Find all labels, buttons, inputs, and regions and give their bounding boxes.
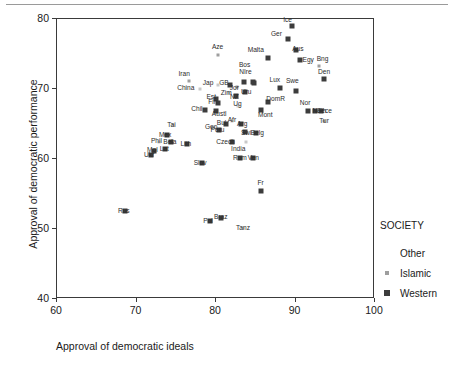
- data-point-label: Den: [318, 68, 330, 75]
- x-tick-mark: [374, 298, 375, 302]
- data-point-label: Bng: [317, 56, 329, 63]
- data-point-label: Swe: [286, 77, 299, 84]
- data-point-label: Nor: [300, 100, 311, 107]
- data-point-label: Belg: [251, 130, 264, 137]
- plot-area: IceGerAusMaltaEgyBngDenAzeBosNIreIranLux…: [56, 18, 374, 298]
- legend-item-other[interactable]: Other: [380, 243, 454, 263]
- data-point: [241, 80, 246, 85]
- x-axis-label: Approval of democratic ideals: [56, 340, 316, 352]
- y-tick-mark: [52, 228, 56, 229]
- data-point: [202, 108, 207, 113]
- data-point-label: Ukr: [144, 152, 154, 159]
- data-point-label: GB: [219, 80, 229, 87]
- y-axis-label: Approval of democratic performance: [27, 39, 39, 289]
- data-point: [277, 85, 282, 90]
- data-point-label: Lux: [270, 77, 281, 84]
- data-point-label: Aus: [292, 46, 303, 53]
- data-point: [252, 80, 257, 85]
- data-point-label: Arg: [237, 121, 247, 128]
- data-point-label: Lith: [180, 140, 191, 147]
- legend-item-islamic[interactable]: Islamic: [380, 263, 454, 283]
- data-point-label: Rom: [233, 154, 247, 161]
- legend-marker-icon: [380, 252, 394, 255]
- data-point: [216, 53, 219, 56]
- data-point-label: Austl: [212, 110, 227, 117]
- legend-title: SOCIETY: [380, 220, 454, 231]
- legend-entries: OtherIslamicWestern: [380, 243, 454, 303]
- data-point-label: Ven: [248, 154, 259, 161]
- x-tick-mark: [295, 298, 296, 302]
- data-point-label: Jap: [203, 80, 214, 87]
- data-point: [285, 36, 290, 41]
- data-point: [322, 76, 327, 81]
- x-tick-mark: [136, 298, 137, 302]
- y-tick-mark: [52, 88, 56, 89]
- x-tick-label: 90: [280, 304, 310, 316]
- data-point-label: Lat: [160, 145, 169, 152]
- legend-marker-icon: [380, 290, 394, 296]
- data-point-label: Ug: [233, 100, 241, 107]
- x-tick-label: 70: [121, 304, 151, 316]
- data-point-label: DomR: [266, 96, 285, 103]
- data-point: [266, 56, 271, 61]
- data-point: [199, 88, 202, 91]
- legend-item-label: Western: [400, 288, 437, 299]
- legend-item-label: Islamic: [400, 268, 431, 279]
- data-point-label: Rus: [118, 208, 130, 215]
- data-point-label: Peru: [211, 127, 225, 134]
- data-point-label: Mont: [258, 112, 273, 119]
- data-point: [290, 24, 295, 29]
- data-point-label: Ger: [271, 30, 282, 37]
- legend-item-western[interactable]: Western: [380, 283, 454, 303]
- data-point-label: Malta: [248, 47, 264, 54]
- data-point-label: Egy: [303, 56, 314, 63]
- data-point-label: Uru: [241, 89, 252, 96]
- data-point-label: Chil: [191, 105, 202, 112]
- x-tick-label: 80: [200, 304, 230, 316]
- data-point-label: Czech: [216, 138, 235, 145]
- data-point-label: Gece: [316, 108, 332, 115]
- data-point-label: Pol: [203, 217, 213, 224]
- data-point-label: Braz: [214, 214, 228, 221]
- legend-marker-icon: [380, 271, 394, 275]
- legend: SOCIETY OtherIslamicWestern: [380, 220, 454, 303]
- legend-item-label: Other: [400, 248, 425, 259]
- y-tick-label: 80: [23, 12, 49, 24]
- x-tick-label: 60: [41, 304, 71, 316]
- data-point-label: Aze: [212, 44, 223, 51]
- data-point-label: Afr: [228, 117, 236, 124]
- data-point: [293, 89, 298, 94]
- data-point-label: Tanz: [236, 224, 250, 231]
- data-point-label: India: [231, 146, 245, 153]
- data-point-label: Fin: [208, 99, 217, 106]
- x-tick-label: 100: [359, 304, 389, 316]
- y-tick-mark: [52, 158, 56, 159]
- data-point-label: Tai: [167, 121, 175, 128]
- data-point: [306, 109, 311, 114]
- data-point-label: Ice: [283, 16, 292, 23]
- data-point: [245, 141, 248, 144]
- data-point-label: NIre: [239, 69, 251, 76]
- x-tick-mark: [215, 298, 216, 302]
- data-point-label: Tur: [319, 118, 329, 125]
- data-point-label: Bul: [217, 119, 227, 126]
- x-tick-mark: [56, 298, 57, 302]
- data-point: [258, 189, 263, 194]
- data-point-label: China: [177, 84, 194, 91]
- scatter-chart-figure: IceGerAusMaltaEgyBngDenAzeBosNIreIranLux…: [0, 0, 454, 373]
- data-point-label: Iran: [179, 70, 190, 77]
- data-point-label: Slov: [194, 160, 207, 167]
- data-point-label: Fr: [257, 180, 263, 187]
- data-point-label: Phil: [151, 138, 162, 145]
- y-tick-mark: [52, 18, 56, 19]
- y-tick-label: 40: [23, 292, 49, 304]
